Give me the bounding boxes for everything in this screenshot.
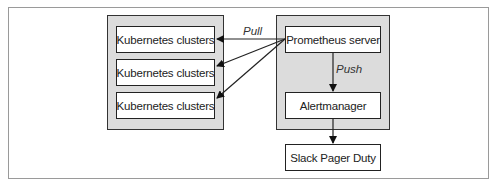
push-label: Push [336,63,362,75]
pull-arrows [217,39,285,98]
pull-arrow-2 [217,39,285,66]
pull-label: Pull [243,25,262,37]
pull-arrow-3 [217,39,285,98]
